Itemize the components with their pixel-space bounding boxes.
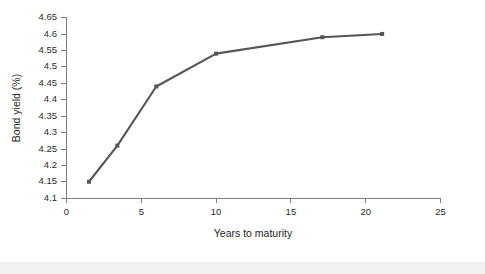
- y-tick-label: 4.35: [39, 110, 58, 121]
- x-tick-label: 0: [64, 206, 69, 217]
- y-axis-ticks: [61, 18, 66, 199]
- chart-plot-area: 4.65 4.6 4.55 4.5 4.45 4.4 4.35 4.3 4.25…: [0, 0, 485, 262]
- y-tick-label: 4.6: [44, 28, 57, 39]
- data-point-marker: [154, 84, 158, 88]
- x-tick-label: 25: [435, 206, 446, 217]
- y-tick-label: 4.15: [39, 175, 58, 186]
- y-axis-title: Bond yield (%): [10, 74, 22, 142]
- footer-band: [0, 262, 485, 274]
- x-tick-label: 15: [286, 206, 297, 217]
- x-axis-title: Years to maturity: [214, 227, 293, 239]
- y-tick-label: 4.5: [44, 60, 57, 71]
- data-series-bond-yield: [87, 32, 384, 184]
- y-tick-label: 4.2: [44, 159, 57, 170]
- data-point-marker: [380, 32, 384, 36]
- y-tick-label: 4.45: [39, 77, 58, 88]
- y-tick-label: 4.65: [39, 11, 58, 22]
- data-point-marker: [115, 144, 119, 148]
- x-tick-label: 20: [360, 206, 371, 217]
- y-tick-label: 4.55: [39, 44, 58, 55]
- x-axis-tick-labels: 0 5 10 15 20 25: [64, 206, 446, 217]
- y-tick-label: 4.1: [44, 192, 57, 203]
- y-axis-tick-labels: 4.65 4.6 4.55 4.5 4.45 4.4 4.35 4.3 4.25…: [39, 11, 58, 203]
- x-tick-label: 5: [139, 206, 144, 217]
- y-tick-label: 4.4: [44, 93, 57, 104]
- series-markers: [87, 32, 384, 184]
- y-tick-label: 4.3: [44, 126, 57, 137]
- bond-yield-curve-chart: 4.65 4.6 4.55 4.5 4.45 4.4 4.35 4.3 4.25…: [0, 0, 485, 262]
- series-line: [89, 34, 382, 182]
- chart-screenshot: 4.65 4.6 4.55 4.5 4.45 4.4 4.35 4.3 4.25…: [0, 0, 485, 274]
- x-tick-label: 10: [211, 206, 222, 217]
- data-point-marker: [87, 180, 91, 184]
- y-tick-label: 4.25: [39, 143, 58, 154]
- data-point-marker: [214, 52, 218, 56]
- data-point-marker: [320, 35, 324, 39]
